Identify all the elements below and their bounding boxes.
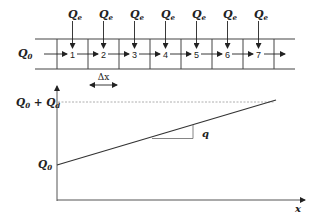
- flow-line: [57, 100, 276, 165]
- x-axis-label: x: [294, 203, 302, 214]
- slope-label: q: [202, 128, 209, 139]
- lateral-label: Qe: [99, 8, 114, 22]
- cell-label: 2: [101, 50, 106, 60]
- cell-label: 3: [132, 50, 137, 60]
- lateral-label: Qe: [223, 8, 238, 22]
- lateral-label: Qe: [68, 8, 83, 22]
- lateral-inflows: Qe Qe Qe Qe Qe Qe Qe: [68, 8, 269, 48]
- flow-graph: Q0 + Qd Q0 q x: [16, 86, 305, 214]
- cell-label: 4: [163, 50, 168, 60]
- cell-label: 6: [225, 50, 230, 60]
- cell-label: 5: [194, 50, 199, 60]
- lateral-label: Qe: [254, 8, 269, 22]
- channel-flow-diagram: Q0 1 2 3 4 5 6 7 Qe Qe Qe Qe: [0, 0, 317, 224]
- y-bottom-label: Q0: [38, 158, 52, 172]
- cell-numbers: 1 2 3 4 5 6 7: [70, 50, 261, 60]
- cell-label: 7: [256, 50, 261, 60]
- lateral-label: Qe: [161, 8, 176, 22]
- inflow-label: Q0: [18, 47, 33, 61]
- lateral-label: Qe: [130, 8, 145, 22]
- y-top-label: Q0 + Qd: [16, 96, 60, 110]
- spacing-label: Δx: [98, 72, 110, 82]
- lateral-label: Qe: [192, 8, 207, 22]
- cell-label: 1: [70, 50, 75, 60]
